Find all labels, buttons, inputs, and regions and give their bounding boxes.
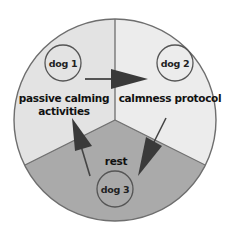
label-rest: rest — [105, 155, 128, 167]
label-passive-calming-line1: passive calming — [19, 92, 109, 104]
node-label-dog-3: dog 3 — [101, 184, 130, 195]
node-dog-2: dog 2 — [157, 45, 193, 81]
cycle-diagram: dog 1 dog 2 dog 3 passive calming activi… — [0, 0, 229, 240]
label-calmness-protocol: calmness protocol — [119, 92, 222, 104]
node-label-dog-1: dog 1 — [49, 58, 78, 69]
node-dog-1: dog 1 — [45, 45, 81, 81]
node-label-dog-2: dog 2 — [161, 58, 190, 69]
label-passive-calming-line2: activities — [38, 105, 89, 117]
node-dog-3: dog 3 — [97, 171, 133, 207]
